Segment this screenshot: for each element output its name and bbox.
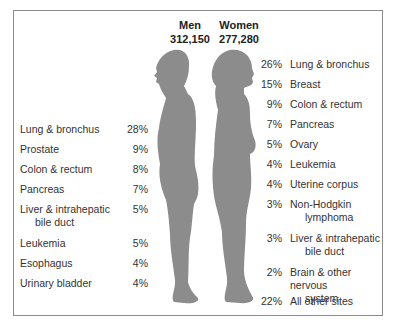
women-pct: 2%: [252, 266, 282, 279]
women-site: Non-Hodgkin lymphoma: [290, 198, 385, 224]
women-site-line1: Liver & intrahepatic: [290, 232, 380, 244]
men-pct: 5%: [108, 203, 148, 216]
women-pct: 7%: [252, 118, 282, 131]
men-site-line2: bile duct: [20, 216, 140, 229]
women-pct: 15%: [252, 78, 282, 91]
men-pct: 8%: [108, 163, 148, 176]
women-pct: 4%: [252, 178, 282, 191]
men-total: 312,150: [165, 32, 215, 46]
women-pct: 26%: [252, 58, 282, 71]
women-pct: 5%: [252, 138, 282, 151]
women-header: Women 277,280: [211, 18, 267, 46]
men-pct: 7%: [108, 183, 148, 196]
men-pct: 28%: [108, 123, 148, 136]
women-site-line2: lymphoma: [290, 211, 385, 224]
women-site-line1: Brain & other nervous: [290, 266, 351, 291]
men-label: Men: [165, 18, 215, 32]
women-site-line2: bile duct: [290, 245, 385, 258]
women-site: Pancreas: [290, 118, 385, 131]
women-site: Ovary: [290, 138, 385, 151]
women-site: Breast: [290, 78, 385, 91]
women-site: Liver & intrahepatic bile duct: [290, 232, 385, 258]
women-pct: 9%: [252, 98, 282, 111]
women-pct: 3%: [252, 198, 282, 211]
men-header: Men 312,150: [165, 18, 215, 46]
women-site: Colon & rectum: [290, 98, 385, 111]
women-pct: 4%: [252, 158, 282, 171]
women-label: Women: [211, 18, 267, 32]
women-site: Uterine corpus: [290, 178, 385, 191]
women-pct: 22%: [252, 295, 282, 308]
men-site-line1: Liver & intrahepatic: [20, 203, 110, 215]
women-site: Leukemia: [290, 158, 385, 171]
men-pct: 9%: [108, 143, 148, 156]
women-site: All other sites: [290, 295, 385, 308]
women-pct: 3%: [252, 232, 282, 245]
men-pct: 4%: [108, 257, 148, 270]
men-pct: 4%: [108, 277, 148, 290]
women-site: Lung & bronchus: [290, 58, 385, 71]
women-total: 277,280: [211, 32, 267, 46]
women-site-line1: Non-Hodgkin: [290, 198, 351, 210]
men-pct: 5%: [108, 237, 148, 250]
